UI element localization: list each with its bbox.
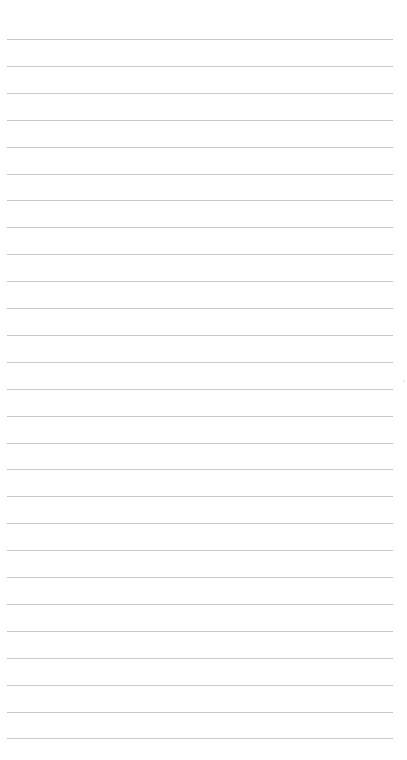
ruled-line: [7, 200, 393, 201]
ruled-line: [7, 712, 393, 713]
ruled-line: [7, 66, 393, 67]
ruled-line: [7, 39, 393, 40]
ruled-line: [7, 523, 393, 524]
lined-paper-page: [0, 0, 407, 760]
ruled-line: [7, 496, 393, 497]
ruled-line: [7, 738, 393, 739]
ruled-line: [7, 577, 393, 578]
ruled-line: [7, 93, 393, 94]
ruled-line: [7, 308, 393, 309]
ruled-line: [7, 389, 393, 390]
ruled-line: [7, 658, 393, 659]
ruled-line: [7, 631, 393, 632]
ruled-line: [7, 147, 393, 148]
ruled-line: [7, 685, 393, 686]
ruled-line: [7, 174, 393, 175]
ruled-line: [7, 469, 393, 470]
paper-speck: [403, 380, 405, 382]
ruled-line: [7, 227, 393, 228]
ruled-line: [7, 416, 393, 417]
ruled-line: [7, 362, 393, 363]
ruled-line: [7, 443, 393, 444]
ruled-line: [7, 335, 393, 336]
ruled-line: [7, 604, 393, 605]
ruled-line: [7, 254, 393, 255]
ruled-line: [7, 120, 393, 121]
ruled-line: [7, 281, 393, 282]
ruled-line: [7, 550, 393, 551]
